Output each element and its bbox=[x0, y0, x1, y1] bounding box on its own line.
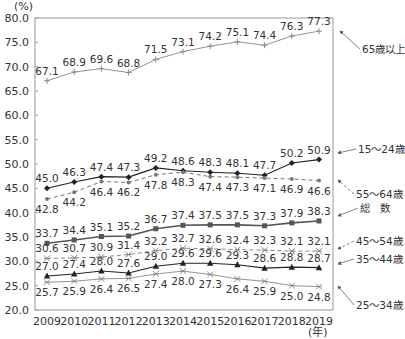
data-label: 37.9 bbox=[280, 207, 303, 219]
triangle-marker-icon bbox=[98, 268, 104, 274]
data-label: 77.3 bbox=[307, 15, 330, 27]
y-tick-label: 75.0 bbox=[5, 36, 30, 49]
plus-marker-icon bbox=[44, 78, 50, 84]
data-label: 68.8 bbox=[117, 57, 140, 69]
dot-marker-icon bbox=[99, 180, 103, 184]
data-label: 29.3 bbox=[226, 249, 249, 261]
plus-marker-icon bbox=[71, 69, 77, 75]
data-label: 25.7 bbox=[35, 286, 58, 298]
data-label: 32.7 bbox=[171, 232, 194, 244]
legend-label: 65歳以上 bbox=[362, 43, 405, 55]
square-marker-icon bbox=[262, 223, 267, 228]
data-label: 32.4 bbox=[226, 234, 250, 246]
data-label: 46.9 bbox=[280, 183, 303, 195]
data-label: 32.2 bbox=[144, 235, 167, 247]
data-label: 75.1 bbox=[226, 26, 249, 38]
square-marker-icon bbox=[235, 222, 240, 227]
data-label: 34.4 bbox=[63, 224, 87, 236]
data-label: 24.8 bbox=[307, 291, 330, 303]
data-label: 33.7 bbox=[35, 227, 58, 239]
y-tick-label: 70.0 bbox=[5, 61, 30, 74]
data-label: 74.2 bbox=[199, 30, 222, 42]
data-label: 26.4 bbox=[226, 283, 250, 295]
square-marker-icon bbox=[317, 218, 322, 223]
data-label: 49.2 bbox=[144, 152, 167, 164]
x-marker-icon bbox=[126, 275, 132, 281]
data-label: 25.0 bbox=[280, 290, 303, 302]
data-label: 50.9 bbox=[307, 144, 330, 156]
square-marker-icon bbox=[208, 222, 213, 227]
diamond-marker-icon bbox=[71, 179, 77, 185]
data-label: 69.6 bbox=[90, 53, 114, 65]
data-label: 32.1 bbox=[307, 235, 330, 247]
legend-arrow bbox=[338, 259, 354, 264]
x-marker-icon bbox=[289, 283, 295, 289]
data-label: 32.1 bbox=[280, 235, 303, 247]
x-marker-icon bbox=[71, 278, 77, 284]
data-label: 25.9 bbox=[63, 285, 86, 297]
y-tick-label: 60.0 bbox=[5, 109, 30, 122]
plus-marker-icon bbox=[316, 28, 322, 34]
x-marker-icon bbox=[98, 276, 104, 282]
y-axis: 20.025.030.035.040.045.050.055.060.065.0… bbox=[5, 12, 39, 317]
x-axis: 2009201020112012201320142015201620172018… bbox=[33, 315, 333, 328]
plus-marker-icon bbox=[180, 49, 186, 55]
square-marker-icon bbox=[153, 226, 158, 231]
diamond-marker-icon bbox=[289, 160, 295, 166]
x-tick-label: 2010 bbox=[60, 315, 88, 328]
x-tick-label: 2013 bbox=[142, 315, 170, 328]
data-label: 36.7 bbox=[144, 213, 167, 225]
data-label: 45.0 bbox=[35, 172, 58, 184]
dot-marker-icon bbox=[72, 190, 76, 194]
plus-marker-icon bbox=[153, 56, 159, 62]
x-marker-icon bbox=[207, 271, 213, 277]
data-label: 46.2 bbox=[117, 186, 140, 198]
y-tick-label: 35.0 bbox=[5, 231, 30, 244]
x-tick-label: 2009 bbox=[33, 315, 61, 328]
data-label: 30.6 bbox=[35, 242, 59, 254]
plus-marker-icon bbox=[234, 39, 240, 45]
dot-marker-icon bbox=[154, 173, 158, 177]
plus-marker-icon bbox=[207, 43, 213, 49]
legend-label: 25～34歳 bbox=[356, 299, 404, 311]
data-label: 42.8 bbox=[35, 203, 58, 215]
data-label: 32.6 bbox=[199, 233, 223, 245]
y-tick-label: 65.0 bbox=[5, 85, 30, 98]
data-label: 37.5 bbox=[199, 209, 222, 221]
data-label: 67.1 bbox=[35, 65, 58, 77]
employment-rate-line-chart: (%) 20.025.030.035.040.045.050.055.060.0… bbox=[0, 0, 405, 339]
data-label: 25.9 bbox=[253, 285, 276, 297]
data-label: 27.4 bbox=[144, 278, 168, 290]
data-label: 29.6 bbox=[171, 247, 195, 259]
data-label: 48.3 bbox=[171, 176, 194, 188]
plus-marker-icon bbox=[98, 66, 104, 72]
y-tick-label: 80.0 bbox=[5, 12, 30, 25]
dot-marker-icon bbox=[181, 170, 185, 174]
data-label: 30.7 bbox=[63, 242, 86, 254]
x-tick-label: 2015 bbox=[196, 315, 224, 328]
data-label: 29.6 bbox=[199, 247, 223, 259]
data-label: 68.9 bbox=[63, 56, 86, 68]
data-label: 37.4 bbox=[171, 209, 195, 221]
data-label: 29.0 bbox=[144, 250, 167, 262]
y-tick-label: 40.0 bbox=[5, 207, 30, 220]
data-label: 47.1 bbox=[253, 182, 276, 194]
data-label: 46.3 bbox=[63, 166, 86, 178]
dot-marker-icon bbox=[208, 175, 212, 179]
x-marker-icon bbox=[180, 268, 186, 274]
data-label: 46.6 bbox=[307, 185, 331, 197]
data-label: 46.4 bbox=[90, 186, 114, 198]
data-label: 47.4 bbox=[90, 161, 114, 173]
data-label: 47.4 bbox=[199, 181, 223, 193]
data-label: 28.8 bbox=[280, 251, 303, 263]
legend-arrow bbox=[338, 286, 354, 305]
data-label: 48.6 bbox=[171, 155, 195, 167]
x-marker-icon bbox=[316, 284, 322, 290]
x-tick-label: 2018 bbox=[278, 315, 306, 328]
data-label: 28.0 bbox=[90, 255, 113, 267]
series-line: 67.168.969.668.871.573.174.275.174.476.3… bbox=[35, 15, 330, 84]
data-label: 28.7 bbox=[307, 252, 330, 264]
y-tick-label: 50.0 bbox=[5, 158, 30, 171]
diamond-marker-icon bbox=[126, 174, 132, 180]
legend-arrow bbox=[338, 149, 356, 153]
